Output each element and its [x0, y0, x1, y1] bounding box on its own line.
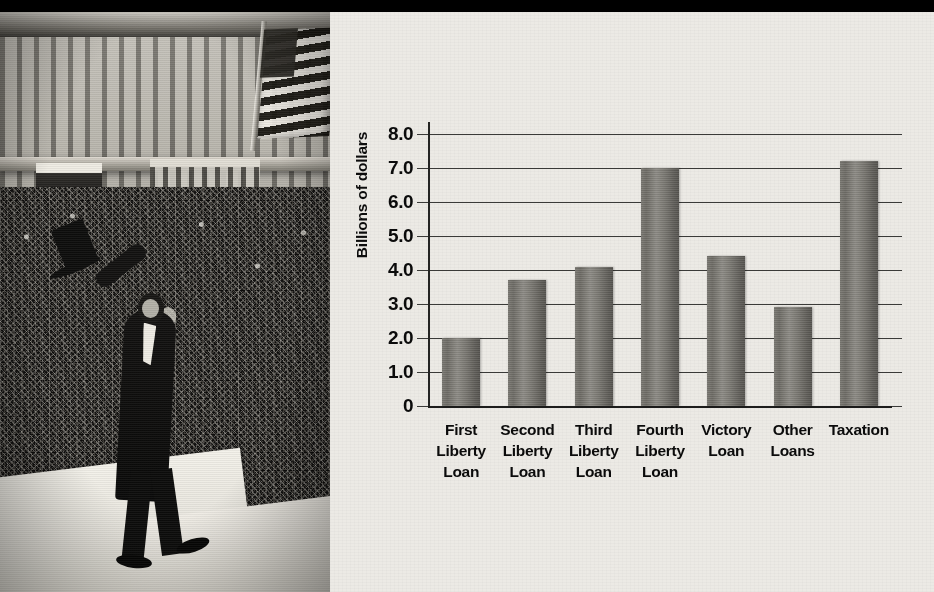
y-axis-tick-mark [417, 270, 428, 271]
x-axis-category-label-line: Loans [755, 440, 829, 461]
chart-panel: Billions of dollars 01.02.03.04.05.06.07… [330, 11, 934, 592]
y-axis-tick-label: 5.0 [331, 226, 413, 245]
y-axis-tick-label: 0 [331, 396, 413, 415]
y-axis-line [428, 122, 430, 406]
y-axis-tick-label: 6.0 [331, 192, 413, 211]
american-flag-canton [260, 28, 298, 78]
y-axis-tick-mark-right [892, 236, 902, 237]
y-axis-tick-mark-right [892, 168, 902, 169]
photo-man-face [142, 299, 159, 318]
x-axis-category-label-line: Second [490, 419, 564, 440]
x-axis-category-label-line: Liberty [557, 440, 631, 461]
y-axis-tick-label: 7.0 [331, 158, 413, 177]
gridline [428, 134, 892, 135]
x-axis-category-label-line: Loan [557, 461, 631, 482]
x-axis-category-label: ThirdLibertyLoan [557, 419, 631, 482]
y-axis-tick-label: 8.0 [331, 124, 413, 143]
x-axis-category-label-line: Taxation [822, 419, 896, 440]
y-axis-tick-mark-right [892, 304, 902, 305]
x-axis-category-label: FourthLibertyLoan [623, 419, 697, 482]
y-axis-tick-mark [417, 168, 428, 169]
x-axis-category-label-line: Other [755, 419, 829, 440]
x-axis-category-label-line: Liberty [424, 440, 498, 461]
y-axis-tick-mark-right [892, 202, 902, 203]
bar [508, 280, 546, 406]
x-axis-category-label-line: Victory [689, 419, 763, 440]
x-axis-category-label-line: Loan [424, 461, 498, 482]
y-axis-tick-mark-right [892, 270, 902, 271]
x-axis-category-label-line: Liberty [623, 440, 697, 461]
y-axis-tick-label: 3.0 [331, 294, 413, 313]
y-axis-tick-label: 4.0 [331, 260, 413, 279]
bar-chart: Billions of dollars 01.02.03.04.05.06.07… [330, 11, 934, 592]
y-axis-tick-mark [417, 338, 428, 339]
x-axis-category-label-line: Loan [623, 461, 697, 482]
x-axis-category-label: Taxation [822, 419, 896, 440]
x-axis-category-label: FirstLibertyLoan [424, 419, 498, 482]
x-axis-line [428, 406, 892, 408]
x-axis-category-label: VictoryLoan [689, 419, 763, 461]
y-axis-tick-mark-right [892, 372, 902, 373]
x-axis-category-label-line: First [424, 419, 498, 440]
page-title-text [0, 0, 934, 3]
bar [840, 161, 878, 406]
bar [575, 267, 613, 406]
bar [442, 338, 480, 406]
y-axis-tick-label: 1.0 [331, 362, 413, 381]
x-axis-category-label-line: Liberty [490, 440, 564, 461]
bar [774, 307, 812, 406]
y-axis-tick-mark [417, 304, 428, 305]
y-axis-tick-label: 2.0 [331, 328, 413, 347]
x-axis-category-label-line: Fourth [623, 419, 697, 440]
y-axis-tick-mark [417, 372, 428, 373]
textbook-page: Billions of dollars 01.02.03.04.05.06.07… [0, 0, 934, 592]
y-axis-tick-mark-right [892, 338, 902, 339]
bar [641, 168, 679, 406]
x-axis-category-label-line: Loan [689, 440, 763, 461]
y-axis-tick-mark [417, 236, 428, 237]
historical-photograph [0, 11, 330, 592]
x-axis-category-label-line: Loan [490, 461, 564, 482]
bar [707, 256, 745, 406]
y-axis-tick-mark-right [892, 134, 902, 135]
y-axis-tick-mark [417, 134, 428, 135]
y-axis-tick-mark [417, 202, 428, 203]
y-axis-tick-mark [417, 406, 428, 407]
x-axis-category-label: OtherLoans [755, 419, 829, 461]
page-title-band [0, 0, 934, 12]
y-axis-tick-mark-right [892, 406, 902, 407]
x-axis-category-label: SecondLibertyLoan [490, 419, 564, 482]
x-axis-category-label-line: Third [557, 419, 631, 440]
